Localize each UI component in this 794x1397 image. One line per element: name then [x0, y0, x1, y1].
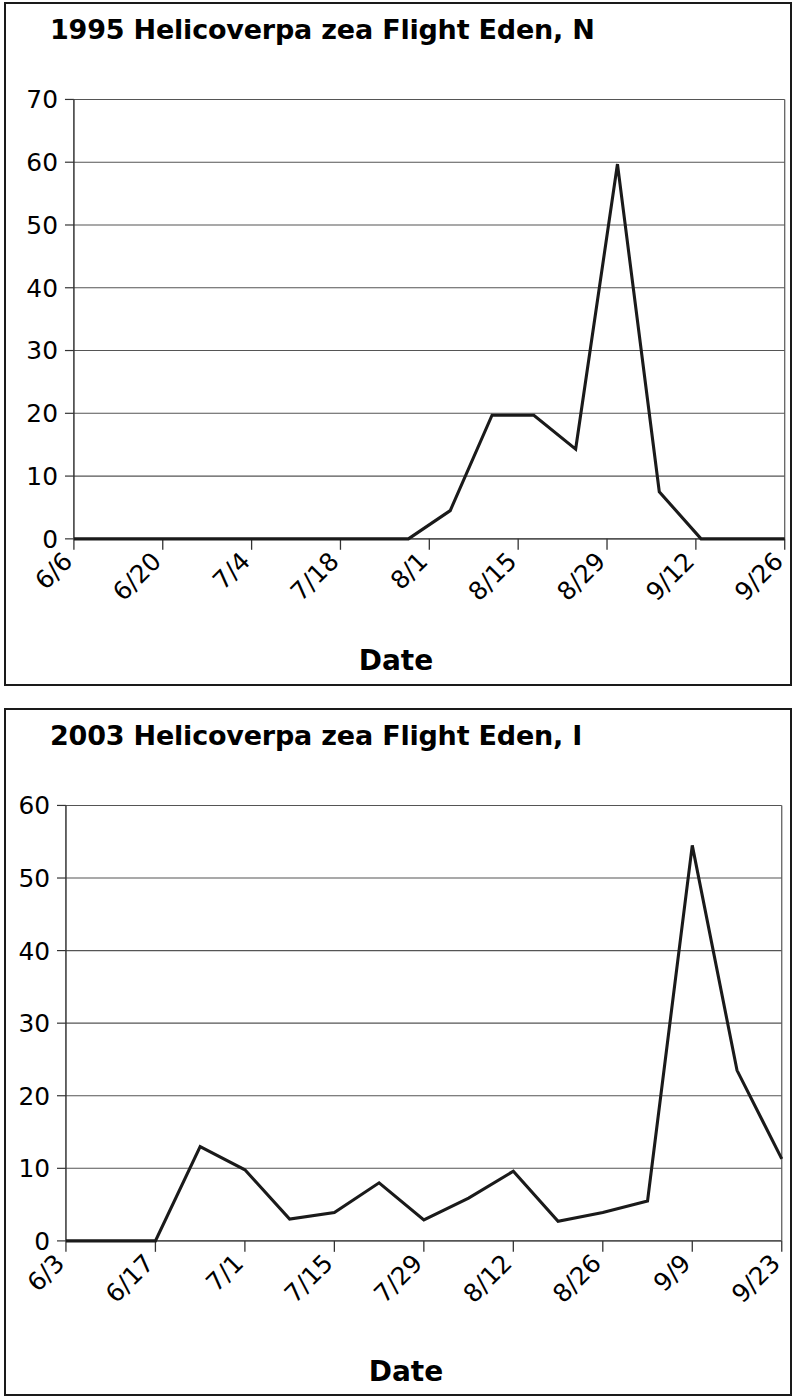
x-tick-label: 9/23: [726, 1248, 786, 1308]
y-tick-label: 20: [18, 1082, 50, 1111]
data-series-line: [66, 845, 782, 1241]
x-tick-label: 7/4: [207, 546, 256, 595]
y-tick-label: 40: [18, 937, 50, 966]
data-series-line: [74, 164, 785, 539]
y-tick-label: 30: [26, 336, 58, 365]
plot-group: 01020304050606/36/177/17/157/298/128/269…: [18, 791, 786, 1308]
chart-plot-1995: 0102030405060706/66/207/47/188/18/158/29…: [6, 4, 790, 684]
chart-panel-2003: 2003 Helicoverpa zea Flight Eden, I 0102…: [4, 708, 792, 1396]
chart-plot-2003: 01020304050606/36/177/17/157/298/128/269…: [6, 710, 790, 1394]
x-tick-label: 7/18: [285, 546, 345, 606]
x-tick-label: 6/6: [29, 546, 78, 595]
x-tick-label: 8/15: [462, 546, 522, 606]
y-tick-label: 60: [18, 791, 50, 820]
x-tick-label: 8/12: [458, 1248, 518, 1308]
x-tick-label: 9/26: [729, 546, 789, 606]
plot-group: 0102030405060706/66/207/47/188/18/158/29…: [26, 85, 789, 606]
y-tick-label: 70: [26, 85, 58, 114]
y-tick-label: 60: [26, 148, 58, 177]
y-tick-label: 10: [18, 1154, 50, 1183]
x-tick-label: 8/26: [547, 1248, 607, 1308]
page-root: 1995 Helicoverpa zea Flight Eden, N 0102…: [0, 0, 794, 1397]
y-tick-label: 20: [26, 399, 58, 428]
x-axis-title-2003: Date: [306, 1355, 506, 1388]
x-tick-label: 9/9: [648, 1248, 697, 1297]
y-tick-label: 50: [26, 211, 58, 240]
y-tick-label: 40: [26, 274, 58, 303]
x-tick-label: 7/15: [279, 1248, 339, 1308]
y-tick-label: 50: [18, 864, 50, 893]
x-tick-label: 6/20: [107, 546, 167, 606]
x-tick-label: 6/3: [21, 1248, 70, 1297]
x-tick-label: 9/12: [640, 546, 700, 606]
x-axis-title-1995: Date: [296, 644, 496, 677]
chart-panel-1995: 1995 Helicoverpa zea Flight Eden, N 0102…: [4, 2, 792, 686]
y-tick-label: 10: [26, 462, 58, 491]
x-tick-label: 7/29: [368, 1248, 428, 1308]
x-tick-label: 8/29: [551, 546, 611, 606]
x-tick-label: 7/1: [200, 1248, 249, 1297]
x-tick-label: 6/17: [100, 1248, 160, 1308]
y-tick-label: 30: [18, 1009, 50, 1038]
x-tick-label: 8/1: [385, 546, 434, 595]
